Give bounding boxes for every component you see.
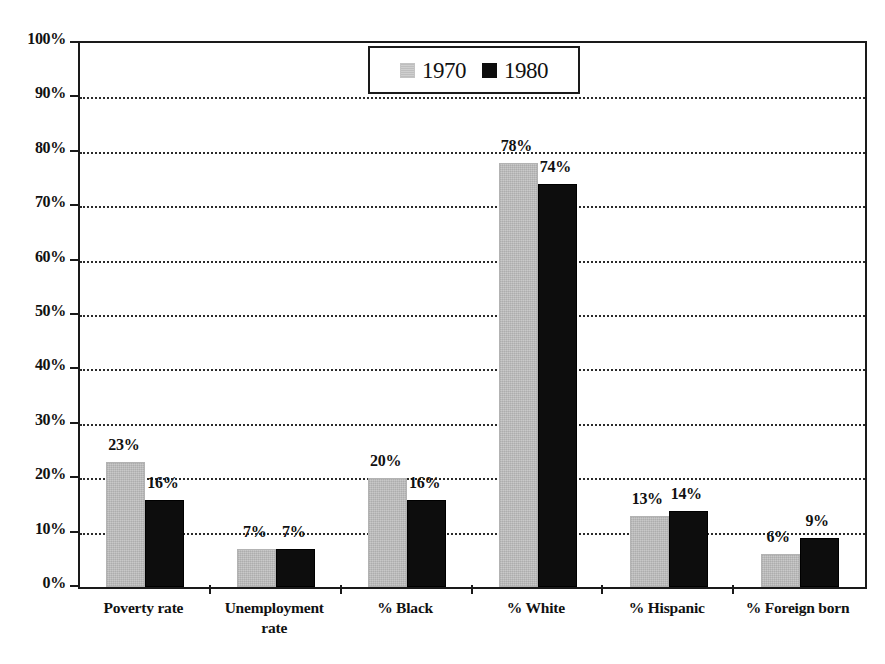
- category-label-line: rate: [197, 618, 352, 638]
- y-tick-label: 20%: [0, 465, 66, 483]
- value-label: 74%: [523, 158, 588, 176]
- bar-1980-1: [276, 549, 315, 587]
- x-tick-mark: [340, 585, 342, 594]
- legend-entry-1980: 1980: [482, 59, 548, 82]
- bar-1980-2: [407, 500, 446, 587]
- value-label: 23%: [91, 436, 156, 454]
- y-tick-label: 80%: [0, 139, 66, 157]
- bar-1970-3: [499, 163, 538, 587]
- black-swatch-icon: [482, 63, 497, 78]
- bar-1980-4: [669, 511, 708, 587]
- gridline: [80, 97, 865, 99]
- x-tick-mark: [601, 585, 603, 594]
- bar-1970-1: [237, 549, 276, 587]
- legend-entry-1970: 1970: [400, 59, 466, 82]
- bar-1980-0: [145, 500, 184, 587]
- y-tick-mark: [70, 95, 78, 97]
- x-tick-mark: [732, 585, 734, 594]
- gridline: [80, 424, 865, 426]
- value-label: 9%: [785, 512, 850, 530]
- y-tick-label: 60%: [0, 248, 66, 266]
- gridline: [80, 261, 865, 263]
- bar-1970-2: [368, 478, 407, 587]
- value-label: 78%: [484, 137, 549, 155]
- value-label: 16%: [130, 474, 195, 492]
- bar-chart: 0%10%20%30%40%50%60%70%80%90%100% 23%16%…: [0, 0, 885, 664]
- bar-1970-4: [630, 516, 669, 587]
- category-label-line: % Foreign born: [720, 598, 875, 618]
- bar-1980-3: [538, 184, 577, 587]
- y-tick-label: 100%: [0, 30, 66, 48]
- y-tick-label: 90%: [0, 84, 66, 102]
- y-tick-mark: [70, 422, 78, 424]
- y-tick-label: 10%: [0, 520, 66, 538]
- y-tick-mark: [70, 41, 78, 43]
- bar-1970-5: [761, 554, 800, 587]
- x-tick-mark: [471, 585, 473, 594]
- gridline: [80, 315, 865, 317]
- gridline: [80, 478, 865, 480]
- y-tick-mark: [70, 476, 78, 478]
- y-tick-mark: [70, 313, 78, 315]
- y-tick-label: 30%: [0, 411, 66, 429]
- y-tick-mark: [70, 259, 78, 261]
- legend-label-1980: 1980: [504, 59, 548, 82]
- gridline: [80, 206, 865, 208]
- y-tick-mark: [70, 531, 78, 533]
- y-tick-label: 40%: [0, 356, 66, 374]
- value-label: 14%: [654, 485, 719, 503]
- y-tick-mark: [70, 585, 78, 587]
- category-label: % Foreign born: [720, 598, 875, 618]
- plot-area: [78, 41, 867, 589]
- y-tick-mark: [70, 204, 78, 206]
- value-label: 16%: [392, 474, 457, 492]
- gray-swatch-icon: [400, 63, 415, 78]
- legend-label-1970: 1970: [422, 59, 466, 82]
- chart-legend: 1970 1980: [368, 46, 580, 94]
- y-tick-mark: [70, 150, 78, 152]
- gridline: [80, 152, 865, 154]
- y-tick-label: 0%: [0, 574, 66, 592]
- y-tick-label: 50%: [0, 302, 66, 320]
- gridline: [80, 369, 865, 371]
- value-label: 20%: [353, 452, 418, 470]
- y-tick-label: 70%: [0, 193, 66, 211]
- value-label: 6%: [746, 528, 811, 546]
- value-label: 7%: [261, 523, 326, 541]
- x-tick-mark: [209, 585, 211, 594]
- y-tick-mark: [70, 367, 78, 369]
